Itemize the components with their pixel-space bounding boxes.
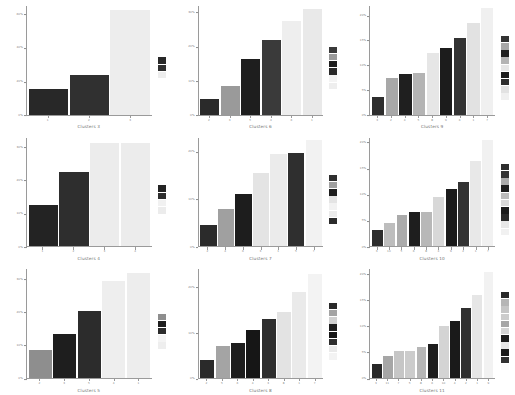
- y-tick-label: 15%: [360, 299, 367, 302]
- y-axis: 0%5%10%15%20%: [345, 138, 369, 248]
- x-tick-label: 9: [484, 379, 494, 385]
- axes: 0%20%40%60%: [2, 6, 152, 116]
- x-axis: 2463157: [198, 247, 324, 253]
- legend-swatch: [501, 321, 509, 328]
- bar: [200, 225, 216, 246]
- bars-container: [26, 269, 152, 379]
- y-tick-label: 20%: [16, 179, 23, 182]
- legend: [495, 138, 513, 262]
- x-tick-label: 2: [458, 247, 469, 253]
- bar: [218, 209, 234, 247]
- panel-title: Clusters 7: [198, 253, 324, 261]
- x-tick-label: 3: [371, 247, 382, 253]
- bar: [386, 78, 398, 115]
- bar: [200, 360, 214, 378]
- legend-swatch: [329, 61, 337, 68]
- plot-area: 0%20%40%60%123Clusters 3: [2, 6, 152, 130]
- axes: 0%10%20%: [174, 138, 324, 248]
- legend-swatch: [501, 72, 509, 79]
- x-tick-label: 3: [90, 247, 120, 253]
- legend: [152, 6, 170, 130]
- bars-container: [26, 6, 152, 116]
- x-tick-label: 6: [230, 379, 244, 385]
- bar: [110, 10, 150, 114]
- legend-swatch: [501, 50, 509, 57]
- bar: [246, 330, 260, 378]
- bar: [216, 346, 230, 378]
- y-axis: 0%10%20%30%: [2, 269, 26, 379]
- bar: [440, 48, 452, 115]
- bar: [306, 140, 322, 246]
- legend-swatch: [329, 203, 337, 210]
- legend-swatch: [158, 314, 166, 321]
- plot-area: 0%10%20%2463157Clusters 7: [174, 138, 324, 262]
- panel-title: Clusters 4: [26, 253, 152, 261]
- x-tick-label: 9: [440, 116, 452, 122]
- legend-swatch: [158, 200, 166, 207]
- x-tick-label: 1: [270, 247, 286, 253]
- bar: [102, 281, 125, 378]
- y-axis: 0%5%10%15%20%: [345, 6, 369, 116]
- bar: [458, 182, 469, 247]
- x-axis: 25643817: [198, 379, 324, 385]
- chart-panel-clusters-4: 0%10%20%30%1234Clusters 4: [0, 132, 172, 264]
- legend-swatch: [501, 79, 509, 86]
- legend-swatch: [501, 200, 509, 207]
- x-tick-label: 10: [439, 379, 449, 385]
- bars-container: [198, 269, 324, 379]
- axes: 0%10%20%30%: [2, 138, 152, 248]
- panel-title: Clusters 3: [26, 121, 152, 129]
- legend: [323, 138, 341, 262]
- legend-swatch: [329, 83, 337, 90]
- legend-swatch: [501, 185, 509, 192]
- chart-panel-clusters-11: 0%5%10%15%20%3117586104219Clusters 11: [343, 263, 515, 395]
- legend-swatch: [501, 229, 509, 236]
- legend-swatch: [158, 207, 166, 214]
- chart-panel-clusters-9: 0%5%10%15%20%324589617Clusters 9: [343, 0, 515, 132]
- y-tick-label: 20%: [360, 273, 367, 276]
- x-tick-label: 4: [246, 379, 260, 385]
- x-tick-label: 5: [412, 116, 424, 122]
- bar: [241, 59, 260, 115]
- legend-swatch: [158, 72, 166, 79]
- bar: [221, 86, 240, 115]
- legend-swatch: [329, 182, 337, 189]
- bar: [121, 143, 150, 247]
- x-tick-label: 1: [302, 116, 321, 122]
- x-tick-label: 2: [385, 116, 397, 122]
- bar: [421, 212, 432, 246]
- bar: [303, 9, 322, 114]
- x-tick-label: 4: [102, 379, 125, 385]
- x-tick-label: 5: [77, 379, 100, 385]
- x-tick-label: 5: [405, 379, 415, 385]
- bar: [262, 319, 276, 378]
- legend-swatch: [501, 164, 509, 171]
- legend-swatch: [329, 196, 337, 203]
- panel-title: Clusters 10: [369, 253, 495, 261]
- legend-swatch: [501, 65, 509, 72]
- legend-swatch: [329, 211, 337, 218]
- x-tick-label: 7: [308, 379, 322, 385]
- x-tick-label: 8: [416, 379, 426, 385]
- bar: [454, 38, 466, 115]
- plot-area: 0%10%20%30%23541Clusters 5: [2, 269, 152, 393]
- x-axis: 123: [26, 116, 152, 122]
- legend-swatch: [329, 75, 337, 82]
- y-axis: 0%20%40%60%: [2, 6, 26, 116]
- legend-swatch: [158, 185, 166, 192]
- legend-swatch: [501, 364, 509, 371]
- legend-swatch: [158, 65, 166, 72]
- x-tick-label: 6: [427, 379, 437, 385]
- legend: [495, 269, 513, 393]
- legend-swatch: [329, 317, 337, 324]
- y-tick-label: 20%: [16, 311, 23, 314]
- legend-swatch: [501, 299, 509, 306]
- y-tick-label: 10%: [188, 198, 195, 201]
- y-tick-label: 10%: [360, 194, 367, 197]
- y-tick-label: 15%: [360, 168, 367, 171]
- bar: [231, 343, 245, 378]
- y-tick-label: 20%: [360, 141, 367, 144]
- bar: [384, 223, 395, 247]
- legend-swatch: [501, 292, 509, 299]
- x-tick-label: 7: [394, 379, 404, 385]
